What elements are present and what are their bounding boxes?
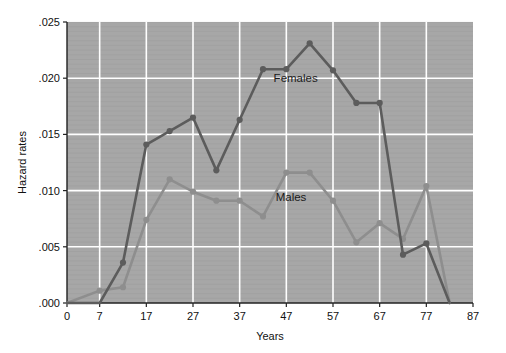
data-point-males — [353, 239, 359, 245]
x-tick-label: 67 — [374, 310, 386, 322]
x-tick-label: 37 — [234, 310, 246, 322]
data-point-females — [120, 259, 126, 265]
data-point-males — [260, 213, 266, 219]
x-tick-label: 17 — [140, 310, 152, 322]
y-tick-label: .010 — [39, 185, 60, 197]
data-point-females — [167, 128, 173, 134]
y-tick-label: .020 — [39, 72, 60, 84]
data-point-males — [423, 183, 429, 189]
x-tick-label: 27 — [187, 310, 199, 322]
x-tick-label: 57 — [327, 310, 339, 322]
y-tick-label: .015 — [39, 128, 60, 140]
chart-canvas: .000.005.010.015.020.0250717273747576777… — [0, 0, 506, 353]
data-point-females — [377, 100, 383, 106]
series-label-males: Males — [276, 191, 307, 203]
x-tick-label: 47 — [280, 310, 292, 322]
data-point-females — [353, 100, 359, 106]
hazard-rates-chart: .000.005.010.015.020.0250717273747576777… — [0, 0, 506, 353]
data-point-females — [330, 67, 336, 73]
data-point-males — [213, 198, 219, 204]
data-point-males — [330, 198, 336, 204]
data-point-males — [120, 284, 126, 290]
y-axis-ticks: .000.005.010.015.020.025 — [39, 16, 67, 309]
data-point-females — [260, 66, 266, 72]
data-point-females — [190, 114, 196, 120]
data-point-females — [400, 252, 406, 258]
data-point-males — [307, 170, 313, 176]
data-point-females — [423, 240, 429, 246]
y-tick-label: .000 — [39, 297, 60, 309]
y-tick-label: .005 — [39, 241, 60, 253]
data-point-males — [283, 170, 289, 176]
data-point-males — [143, 217, 149, 223]
y-tick-label: .025 — [39, 16, 60, 28]
data-point-males — [167, 176, 173, 182]
x-tick-label: 7 — [97, 310, 103, 322]
data-point-females — [307, 40, 313, 46]
data-point-females — [237, 117, 243, 123]
x-tick-label: 87 — [467, 310, 479, 322]
x-tick-label: 77 — [420, 310, 432, 322]
y-axis-title: Hazard rates — [16, 131, 28, 194]
x-axis-ticks: 071727374757677787 — [64, 303, 479, 322]
data-point-males — [190, 189, 196, 195]
x-tick-label: 0 — [64, 310, 70, 322]
x-axis-title: Years — [256, 330, 284, 342]
data-point-males — [377, 220, 383, 226]
data-point-females — [213, 167, 219, 173]
data-point-males — [237, 198, 243, 204]
series-label-females: Females — [274, 72, 318, 84]
data-point-males — [97, 288, 103, 294]
data-point-females — [143, 141, 149, 147]
